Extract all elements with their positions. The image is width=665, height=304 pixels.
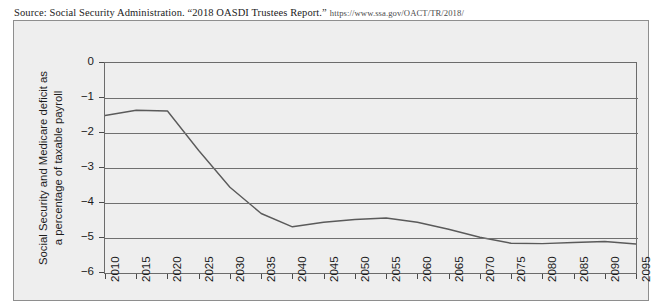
y-tick-label: −6 — [68, 266, 94, 278]
y-tick-label: 0 — [68, 56, 94, 68]
x-tick-mark — [511, 274, 512, 279]
gridline-neg1 — [105, 98, 638, 99]
y-tick-label: −5 — [68, 231, 94, 243]
x-tick-mark — [292, 274, 293, 279]
y-tick-label: −4 — [68, 196, 94, 208]
source-credit-text: Source: Social Security Administration. … — [14, 7, 327, 18]
x-tick-label: 2020 — [172, 256, 184, 282]
gridline-neg5 — [105, 238, 638, 239]
y-axis-title-line-2: a percentage of taxable payroll — [51, 91, 66, 246]
gridline-neg2 — [105, 133, 638, 134]
plot-area — [104, 62, 637, 274]
x-tick-label: 2035 — [266, 256, 278, 282]
x-tick-label: 2025 — [204, 256, 216, 282]
source-credit: Source: Social Security Administration. … — [14, 2, 654, 18]
x-tick-label: 2090 — [610, 256, 622, 282]
x-tick-label: 2015 — [141, 256, 153, 282]
x-tick-mark — [449, 274, 450, 279]
x-tick-label: 2040 — [297, 256, 309, 282]
x-tick-mark — [417, 274, 418, 279]
x-tick-mark — [542, 274, 543, 279]
source-url-link[interactable]: https://www.ssa.gov/OACT/TR/2018/ — [330, 8, 464, 18]
x-tick-mark — [230, 274, 231, 279]
x-tick-label: 2085 — [579, 256, 591, 282]
x-tick-label: 2065 — [454, 256, 466, 282]
x-tick-label: 2045 — [329, 256, 341, 282]
x-tick-label: 2060 — [422, 256, 434, 282]
x-tick-label: 2095 — [641, 256, 653, 282]
x-tick-mark — [199, 274, 200, 279]
x-tick-label: 2080 — [547, 256, 559, 282]
x-tick-mark — [324, 274, 325, 279]
x-tick-mark — [355, 274, 356, 279]
y-tick-label: −3 — [68, 161, 94, 173]
x-tick-label: 2070 — [485, 256, 497, 282]
chart-figure: Social Security and Medicare deficit as … — [13, 20, 649, 301]
x-tick-mark — [261, 274, 262, 279]
x-tick-mark — [386, 274, 387, 279]
x-tick-mark — [636, 274, 637, 279]
x-tick-label: 2055 — [391, 256, 403, 282]
x-tick-mark — [574, 274, 575, 279]
x-tick-label: 2075 — [516, 256, 528, 282]
x-tick-label: 2030 — [235, 256, 247, 282]
x-tick-label: 2010 — [110, 256, 122, 282]
x-tick-mark — [480, 274, 481, 279]
x-tick-mark — [167, 274, 168, 279]
y-tick-label: −2 — [68, 126, 94, 138]
x-tick-mark — [605, 274, 606, 279]
x-tick-label: 2050 — [360, 256, 372, 282]
x-tick-mark — [136, 274, 137, 279]
x-tick-mark — [105, 274, 106, 279]
y-axis-title: Social Security and Medicare deficit as … — [36, 62, 66, 274]
y-tick-label: −1 — [68, 91, 94, 103]
y-axis-title-line-1: Social Security and Medicare deficit as — [36, 71, 51, 265]
gridline-neg4 — [105, 203, 638, 204]
gridline-neg3 — [105, 168, 638, 169]
